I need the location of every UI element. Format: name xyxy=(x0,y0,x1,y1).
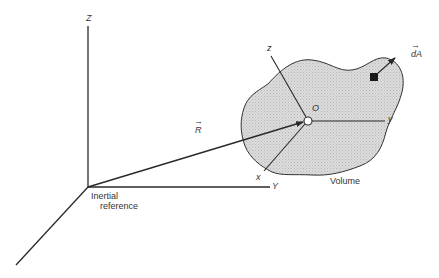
body-z-axis-label: z xyxy=(267,44,272,53)
inertial-x-axis xyxy=(16,187,88,265)
inertial-y-axis-label: Y xyxy=(272,182,278,191)
control-volume-diagram xyxy=(0,0,439,278)
position-vector-label: R xyxy=(195,126,202,135)
inertial-reference-label-line2: reference xyxy=(100,202,138,211)
area-element-square xyxy=(370,73,378,81)
body-origin-label: O xyxy=(312,104,319,113)
area-element-label: dA xyxy=(411,50,422,59)
body-y-axis-label: y xyxy=(388,115,393,124)
body-origin-point xyxy=(304,117,312,125)
control-volume-shape xyxy=(241,58,403,175)
inertial-z-axis-label: Z xyxy=(86,14,92,23)
body-x-axis-label: x xyxy=(256,173,261,182)
volume-label: Volume xyxy=(330,177,360,186)
inertial-reference-label-line1: Inertial xyxy=(91,192,118,201)
